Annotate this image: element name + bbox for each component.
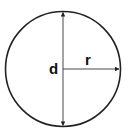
radius-label: r: [85, 51, 91, 68]
circle-diagram: d r: [0, 0, 130, 135]
diameter-label: d: [49, 60, 58, 77]
